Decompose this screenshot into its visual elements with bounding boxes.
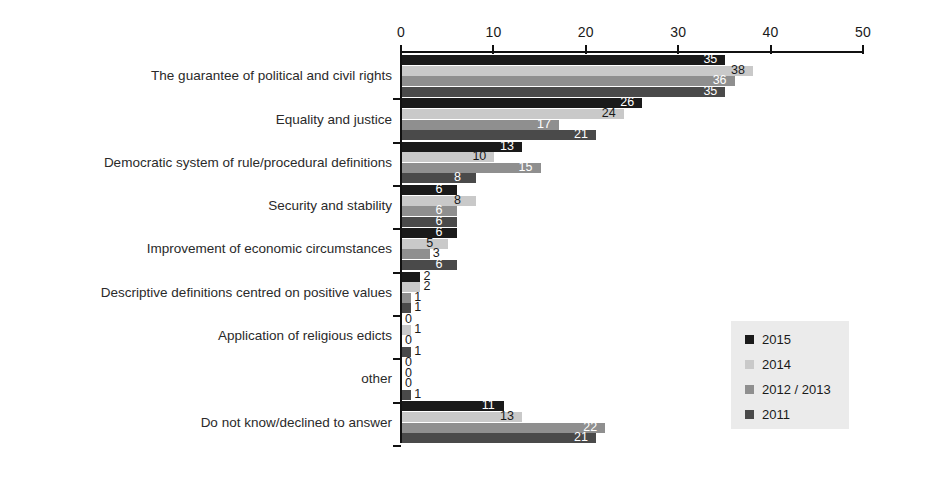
chart-bar bbox=[402, 239, 448, 249]
chart-bar bbox=[402, 390, 411, 400]
category-axis-tick bbox=[393, 272, 401, 274]
chart-bar bbox=[402, 120, 559, 130]
x-axis-tick-label: 50 bbox=[855, 24, 871, 40]
legend-label: 2012 / 2013 bbox=[762, 382, 831, 397]
bar-value-label: 1 bbox=[414, 389, 421, 399]
bar-value-label: 21 bbox=[574, 129, 588, 139]
bar-chart: 01020304050 The guarantee of political a… bbox=[0, 0, 938, 479]
bar-value-label: 24 bbox=[602, 108, 616, 118]
category-axis-tick bbox=[393, 98, 401, 100]
x-axis-tick-label: 30 bbox=[670, 24, 686, 40]
bar-value-label: 6 bbox=[435, 227, 442, 237]
bar-value-label: 0 bbox=[405, 378, 412, 388]
chart-bar bbox=[402, 55, 725, 65]
x-axis-tick-label: 10 bbox=[485, 24, 501, 40]
category-axis-tick bbox=[393, 315, 401, 317]
bar-value-label: 11 bbox=[482, 400, 495, 410]
chart-bar bbox=[402, 249, 430, 259]
category-axis-tick bbox=[393, 445, 401, 447]
category-label: The guarantee of political and civil rig… bbox=[151, 68, 392, 83]
chart-bar bbox=[402, 272, 420, 282]
category-axis-tick bbox=[393, 358, 401, 360]
category-label: Descriptive definitions centred on posit… bbox=[101, 285, 392, 300]
x-axis-tick bbox=[770, 45, 772, 54]
bar-value-label: 13 bbox=[500, 141, 514, 151]
category-axis-tick bbox=[393, 228, 401, 230]
bar-value-label: 38 bbox=[731, 65, 745, 75]
category-axis-tick bbox=[393, 142, 401, 144]
legend-label: 2011 bbox=[762, 407, 790, 422]
x-axis-tick-label: 0 bbox=[397, 24, 405, 40]
legend-swatch-icon bbox=[745, 360, 754, 369]
category-label: Equality and justice bbox=[276, 112, 392, 127]
category-label: Do not know/declined to answer bbox=[201, 415, 392, 430]
x-axis-tick-label: 40 bbox=[763, 24, 779, 40]
bar-value-label: 1 bbox=[414, 302, 421, 312]
bar-value-label: 26 bbox=[620, 97, 634, 107]
chart-bar bbox=[402, 217, 457, 227]
category-label: Democratic system of rule/procedural def… bbox=[104, 155, 392, 170]
x-axis-tick bbox=[677, 45, 679, 54]
x-axis-tick-label: 20 bbox=[578, 24, 594, 40]
legend-label: 2015 bbox=[762, 332, 791, 347]
bar-value-label: 1 bbox=[414, 324, 421, 334]
bar-value-label: 6 bbox=[435, 184, 442, 194]
chart-bar bbox=[402, 109, 624, 119]
category-label: Security and stability bbox=[268, 198, 392, 213]
bar-value-label: 35 bbox=[703, 86, 717, 96]
legend-label: 2014 bbox=[762, 357, 791, 372]
bar-value-label: 8 bbox=[454, 195, 461, 205]
x-axis-tick bbox=[492, 45, 494, 54]
x-axis-tick bbox=[862, 45, 864, 54]
chart-bar bbox=[402, 206, 457, 216]
legend-item[interactable]: 2014 bbox=[745, 356, 791, 372]
category-label: other bbox=[361, 371, 392, 386]
bar-value-label: 10 bbox=[472, 151, 486, 161]
chart-bar bbox=[402, 185, 457, 195]
bar-value-label: 0 bbox=[405, 335, 412, 345]
bar-value-label: 15 bbox=[519, 162, 533, 172]
x-axis-tick bbox=[400, 45, 402, 54]
x-axis-line bbox=[401, 51, 863, 53]
chart-bar bbox=[402, 66, 753, 76]
chart-bar bbox=[402, 87, 725, 97]
category-label: Application of religious edicts bbox=[218, 328, 392, 343]
chart-bar bbox=[402, 130, 596, 140]
legend-swatch-icon bbox=[745, 335, 754, 344]
bar-value-label: 2 bbox=[423, 281, 430, 291]
chart-legend: 201520142012 / 20132011 bbox=[731, 321, 849, 429]
chart-bar bbox=[402, 76, 735, 86]
bar-value-label: 6 bbox=[435, 259, 442, 269]
bar-value-label: 21 bbox=[574, 432, 588, 442]
category-label: Improvement of economic circumstances bbox=[147, 241, 392, 256]
legend-item[interactable]: 2011 bbox=[745, 406, 790, 422]
legend-item[interactable]: 2012 / 2013 bbox=[745, 381, 831, 397]
category-axis-tick bbox=[393, 185, 401, 187]
bar-value-label: 1 bbox=[414, 346, 421, 356]
bar-value-label: 13 bbox=[500, 411, 514, 421]
legend-item[interactable]: 2015 bbox=[745, 331, 791, 347]
bar-value-label: 8 bbox=[454, 172, 461, 182]
bar-value-label: 17 bbox=[537, 119, 551, 129]
bar-value-label: 0 bbox=[405, 314, 412, 324]
chart-bar bbox=[402, 433, 596, 443]
bar-value-label: 35 bbox=[703, 54, 717, 64]
legend-swatch-icon bbox=[745, 385, 754, 394]
chart-bar bbox=[402, 293, 411, 303]
legend-swatch-icon bbox=[745, 410, 754, 419]
x-axis-tick bbox=[585, 45, 587, 54]
category-axis-tick bbox=[393, 402, 401, 404]
bar-value-label: 6 bbox=[435, 216, 442, 226]
